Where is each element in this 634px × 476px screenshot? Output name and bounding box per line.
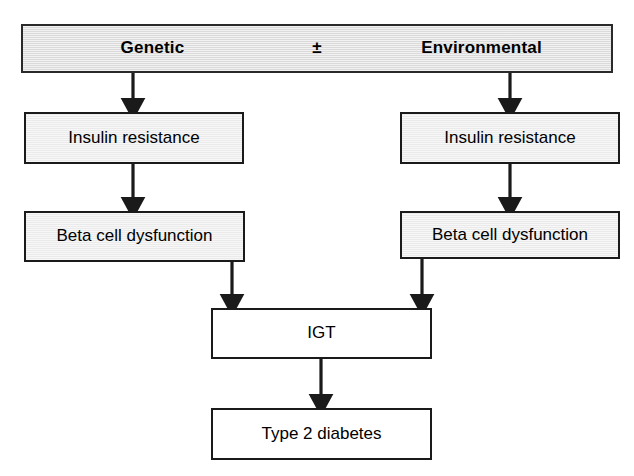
node-label: Beta cell dysfunction [57,227,213,246]
environmental-label: Environmental [421,39,542,58]
environmental-label-cell: Environmental [352,26,611,71]
node-beta-cell-dysfunction-right: Beta cell dysfunction [400,211,620,259]
node-label: Insulin resistance [444,129,575,148]
flowchart-diagram: Genetic ± Environmental Insulin resistan… [0,0,634,476]
node-label: Insulin resistance [68,129,199,148]
genetic-label-cell: Genetic [23,26,282,71]
plus-minus-label: ± [312,39,322,58]
node-type-2-diabetes: Type 2 diabetes [211,408,432,460]
node-igt: IGT [211,308,432,359]
plus-minus-operator: ± [282,26,352,71]
node-insulin-resistance-right: Insulin resistance [400,112,620,164]
node-insulin-resistance-left: Insulin resistance [24,112,244,164]
source-factors-bar: Genetic ± Environmental [21,24,613,73]
node-label: Beta cell dysfunction [432,226,588,245]
node-label: IGT [307,324,335,343]
genetic-label: Genetic [121,39,185,58]
node-label: Type 2 diabetes [261,425,381,444]
node-beta-cell-dysfunction-left: Beta cell dysfunction [24,211,245,262]
